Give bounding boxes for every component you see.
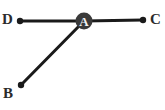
endpoint-dot-D <box>17 18 23 24</box>
point-label-C: C <box>150 12 161 27</box>
geometry-figure-canvas: A D C B <box>0 0 165 110</box>
endpoint-dot-B <box>18 82 24 88</box>
endpoint-dot-C <box>140 17 146 23</box>
segment-AB <box>21 21 84 85</box>
point-label-D: D <box>2 12 13 27</box>
geometry-figure-svg: A <box>0 0 165 110</box>
point-label-B: B <box>3 86 13 101</box>
segment-AC <box>84 20 143 21</box>
vertex-label-A: A <box>79 14 89 29</box>
